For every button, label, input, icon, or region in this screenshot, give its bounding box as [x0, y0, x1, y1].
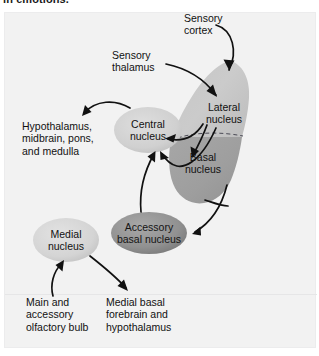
medial-basal-forebrain-hypothalamus-label: Medial basal forebrain and hypothalamus	[106, 296, 171, 333]
arrow-accessory-basal-to-central-nucleus	[141, 154, 154, 212]
arrowhead-basal-to-central	[160, 151, 169, 160]
arrow-amygdala-to-accessory-basal-nucleus	[195, 185, 227, 232]
sensory-cortex-label: Sensory cortex	[184, 12, 223, 37]
central-nucleus-label: Central nucleus	[118, 118, 178, 143]
arrowhead-central-to-hypothalamus	[82, 105, 92, 116]
medial-nucleus-label: Medial nucleus	[36, 228, 96, 253]
sensory-thalamus-label: Sensory thalamus	[112, 49, 155, 74]
lateral-nucleus-label: Lateral nucleus	[194, 101, 254, 126]
arrow-basal-tail-curve	[205, 200, 228, 206]
arrowhead-accessory-basal-to-central	[148, 151, 156, 163]
figure-root: in emotions.	[0, 0, 319, 356]
main-accessory-olfactory-bulb-label: Main and accessory olfactory bulb	[26, 296, 88, 333]
arrowhead-sensory-cortex	[224, 60, 235, 71]
basal-nucleus-label: Basal nucleus	[176, 151, 230, 176]
accessory-basal-nucleus-label: Accessory basal nucleus	[104, 221, 194, 246]
hypothalamus-midbrain-pons-medulla-label: Hypothalamus, midbrain, pons, and medull…	[22, 120, 94, 157]
